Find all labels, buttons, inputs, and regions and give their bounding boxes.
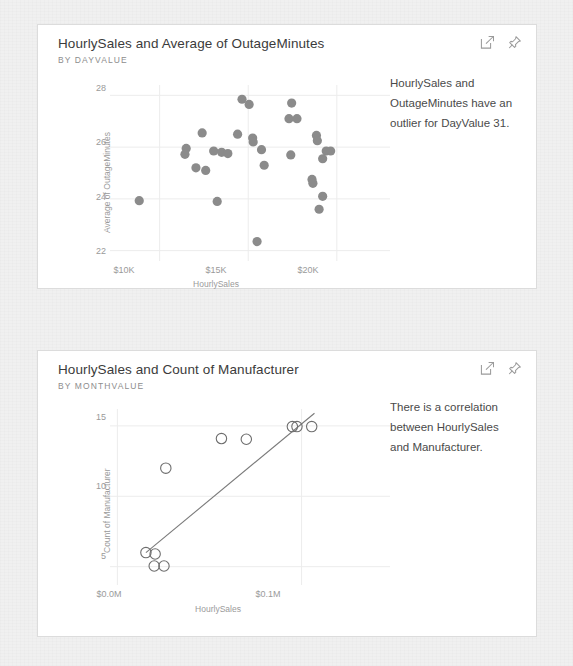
- insight-card-outage-minutes[interactable]: HourlySales and Average of OutageMinutes…: [37, 24, 537, 289]
- focus-mode-icon[interactable]: [480, 35, 495, 50]
- chart1-insight-text: HourlySales and OutageMinutes have an ou…: [390, 73, 520, 133]
- focus-mode-icon[interactable]: [480, 361, 495, 376]
- data-point[interactable]: [245, 100, 254, 109]
- data-point[interactable]: [260, 161, 269, 170]
- data-point[interactable]: [287, 421, 297, 431]
- data-point[interactable]: [159, 561, 169, 571]
- data-point[interactable]: [307, 421, 317, 431]
- pin-icon[interactable]: [507, 35, 522, 50]
- chart1-plot-area[interactable]: [110, 85, 390, 261]
- chart1-xtick-15k: $15K: [186, 265, 246, 275]
- chart1-xtick-10k: $10K: [94, 265, 154, 275]
- page-title: HourlySales and Average of OutageMinutes: [58, 36, 324, 51]
- data-point[interactable]: [318, 154, 327, 163]
- data-point[interactable]: [135, 196, 144, 205]
- chart2-xtick-0m: $0.0M: [79, 589, 139, 599]
- chart1-ytick-28: 28: [82, 83, 106, 93]
- data-point[interactable]: [315, 205, 324, 214]
- data-point[interactable]: [198, 128, 207, 137]
- data-point[interactable]: [161, 463, 171, 473]
- chart1-x-axis-title: HourlySales: [186, 279, 246, 289]
- data-point[interactable]: [292, 421, 302, 431]
- chart2-x-axis-title: HourlySales: [188, 604, 248, 614]
- data-point[interactable]: [318, 192, 327, 201]
- card-actions: [480, 35, 522, 50]
- card2-actions: [480, 361, 522, 376]
- data-point[interactable]: [223, 149, 232, 158]
- chart1-xtick-20k: $20K: [278, 265, 338, 275]
- data-point[interactable]: [180, 150, 189, 159]
- data-point[interactable]: [252, 237, 261, 246]
- data-point[interactable]: [216, 433, 226, 443]
- data-point[interactable]: [209, 146, 218, 155]
- data-point[interactable]: [286, 150, 295, 159]
- data-point[interactable]: [201, 166, 210, 175]
- data-point[interactable]: [257, 145, 266, 154]
- data-point[interactable]: [287, 99, 296, 108]
- data-point[interactable]: [249, 137, 258, 146]
- data-point[interactable]: [313, 136, 322, 145]
- data-point[interactable]: [284, 114, 293, 123]
- chart2-ytick-5: 5: [82, 551, 106, 561]
- data-point[interactable]: [241, 434, 251, 444]
- card-subtitle: BY DAYVALUE: [58, 55, 128, 65]
- data-point[interactable]: [308, 179, 317, 188]
- chart2-plot-area[interactable]: [110, 409, 390, 585]
- card2-subtitle: BY MONTHVALUE: [58, 381, 144, 391]
- card2-title: HourlySales and Count of Manufacturer: [58, 362, 299, 377]
- chart2-insight-text: There is a correlation between HourlySal…: [390, 397, 520, 457]
- data-point[interactable]: [292, 114, 301, 123]
- data-point[interactable]: [149, 561, 159, 571]
- data-point[interactable]: [233, 130, 242, 139]
- chart2-ytick-15: 15: [82, 412, 106, 422]
- chart1-ytick-26: 26: [82, 137, 106, 147]
- chart1-ytick-24: 24: [82, 192, 106, 202]
- insight-card-manufacturer-count[interactable]: HourlySales and Count of Manufacturer BY…: [37, 350, 537, 637]
- pin-icon[interactable]: [507, 361, 522, 376]
- chart2-ytick-10: 10: [82, 481, 106, 491]
- chart1-ytick-22: 22: [82, 246, 106, 256]
- chart2-xtick-01m: $0.1M: [238, 589, 298, 599]
- data-point[interactable]: [191, 163, 200, 172]
- data-point[interactable]: [326, 146, 335, 155]
- data-point[interactable]: [213, 197, 222, 206]
